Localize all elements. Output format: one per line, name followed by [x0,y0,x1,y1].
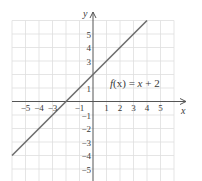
svg-text:−4: −4 [81,151,91,161]
svg-text:3: 3 [87,57,92,67]
svg-text:−5: −5 [81,165,91,175]
svg-text:4: 4 [145,103,150,113]
svg-text:−3: −3 [81,138,91,148]
function-annotation: f(x) = x + 2 [110,77,160,90]
x-axis-label: x [180,105,186,116]
svg-text:1: 1 [104,103,109,113]
svg-text:−2: −2 [81,124,91,134]
x-tick-labels: −5 −4 −3 −1 1 2 3 4 5 [21,103,164,113]
svg-text:−3: −3 [48,103,58,113]
svg-text:2: 2 [118,103,123,113]
svg-text:1: 1 [87,84,92,94]
function-graph: x y −5 −4 −3 −1 1 2 3 4 5 5 4 3 1 −1 −2 … [0,0,202,181]
svg-text:−4: −4 [34,103,44,113]
svg-text:5: 5 [87,30,92,40]
y-axis-label: y [82,8,88,19]
svg-text:−1: −1 [81,111,91,121]
svg-text:3: 3 [131,103,136,113]
svg-text:−5: −5 [21,103,31,113]
svg-text:4: 4 [87,43,92,53]
svg-text:5: 5 [158,103,163,113]
